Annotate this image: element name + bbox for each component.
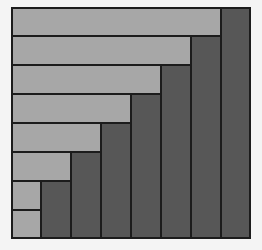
dark-column-5: [131, 94, 161, 239]
dark-column-7: [191, 36, 221, 239]
light-bar-row-8: [11, 210, 41, 239]
light-bar-row-7: [11, 181, 41, 210]
light-bar-row-3: [11, 65, 161, 94]
staircase-diagram: [11, 7, 251, 239]
light-bar-row-2: [11, 36, 191, 65]
dark-column-6: [161, 65, 191, 239]
light-bar-row-5: [11, 123, 101, 152]
dark-column-3: [71, 152, 101, 239]
light-bar-row-4: [11, 94, 131, 123]
light-bar-row-1: [11, 7, 221, 36]
dark-column-2: [41, 181, 71, 239]
dark-column-8: [221, 7, 251, 239]
dark-column-4: [101, 123, 131, 239]
light-bar-row-6: [11, 152, 71, 181]
